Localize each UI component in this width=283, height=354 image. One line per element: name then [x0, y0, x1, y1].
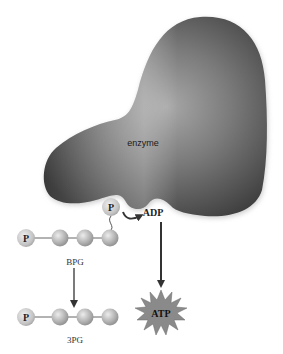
enzyme-shape	[44, 17, 268, 219]
atp-burst: ATP	[135, 290, 187, 335]
phosphate-group-transferring: P	[102, 198, 120, 231]
adp-label: ADP	[143, 207, 164, 218]
bpg-molecule: P	[17, 229, 119, 247]
3pg-phosphate-label: P	[23, 312, 29, 323]
transfer-arrow	[123, 212, 140, 219]
enzyme-label: enzyme	[127, 138, 159, 148]
3pg-molecule: P	[17, 308, 119, 326]
diagram-canvas: enzyme P ADP P BPG P 3PG ATP	[0, 0, 283, 354]
bpg-label: BPG	[66, 257, 84, 267]
bpg-phosphate-label: P	[23, 233, 29, 244]
phosphate-label: P	[108, 202, 114, 213]
3pg-label: 3PG	[67, 335, 84, 345]
atp-label: ATP	[151, 308, 170, 319]
